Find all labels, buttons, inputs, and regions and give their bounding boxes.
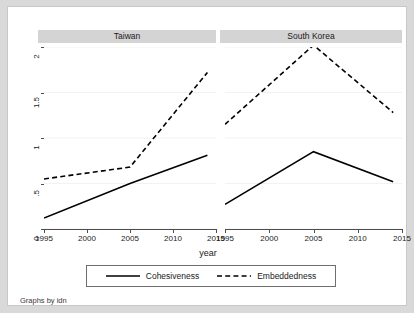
x-axis-spine bbox=[225, 229, 402, 230]
x-axis-tick-label: 2010 bbox=[345, 234, 371, 243]
y-axis-tick-label: 2 bbox=[32, 46, 41, 68]
x-axis-tick-label: 2005 bbox=[301, 234, 327, 243]
x-axis-south-korea bbox=[225, 229, 402, 233]
x-axis-tick-label: 2000 bbox=[74, 234, 100, 243]
plot-area-taiwan bbox=[44, 47, 216, 229]
series-line-embeddedness bbox=[44, 72, 207, 178]
series-line-embeddedness bbox=[225, 47, 393, 124]
x-axis-title: year bbox=[8, 248, 408, 258]
x-axis-tick-label: 2010 bbox=[160, 234, 186, 243]
x-axis-tick bbox=[216, 229, 217, 233]
legend-swatch-solid bbox=[106, 272, 140, 280]
x-axis-taiwan bbox=[44, 229, 216, 233]
legend-swatch-dashed bbox=[217, 272, 251, 280]
panel-title-south-korea: South Korea bbox=[220, 30, 402, 43]
legend-entry-cohesiveness: Cohesiveness bbox=[106, 271, 199, 281]
x-axis-tick-label: 2000 bbox=[256, 234, 282, 243]
figure-caption: Graphs by idn bbox=[20, 296, 67, 305]
panel-title-taiwan: Taiwan bbox=[38, 30, 216, 43]
plot-svg-south-korea bbox=[225, 47, 402, 229]
series-line-cohesiveness bbox=[44, 155, 207, 218]
chart-figure: Taiwan South Korea 0.511.52 year Cohesiv… bbox=[7, 6, 407, 306]
y-axis-tick-label: 1 bbox=[32, 137, 41, 159]
x-axis-tick bbox=[402, 229, 403, 233]
y-axis-tick-label: 1.5 bbox=[32, 91, 41, 113]
x-axis-tick-label: 2015 bbox=[389, 234, 414, 243]
legend-entry-embeddedness: Embeddedness bbox=[217, 271, 316, 281]
legend-label-cohesiveness: Cohesiveness bbox=[146, 271, 199, 281]
x-axis-tick-label: 1995 bbox=[212, 234, 238, 243]
plot-area-south-korea bbox=[225, 47, 402, 229]
x-axis-tick-label: 2005 bbox=[117, 234, 143, 243]
y-axis-tick-label: .5 bbox=[32, 182, 41, 204]
legend: Cohesiveness Embeddedness bbox=[86, 265, 336, 287]
legend-label-embeddedness: Embeddedness bbox=[257, 271, 316, 281]
x-axis-spine bbox=[44, 229, 216, 230]
plot-svg-taiwan bbox=[44, 47, 216, 229]
x-axis-tick-label: 1995 bbox=[31, 234, 57, 243]
series-line-cohesiveness bbox=[225, 152, 393, 205]
